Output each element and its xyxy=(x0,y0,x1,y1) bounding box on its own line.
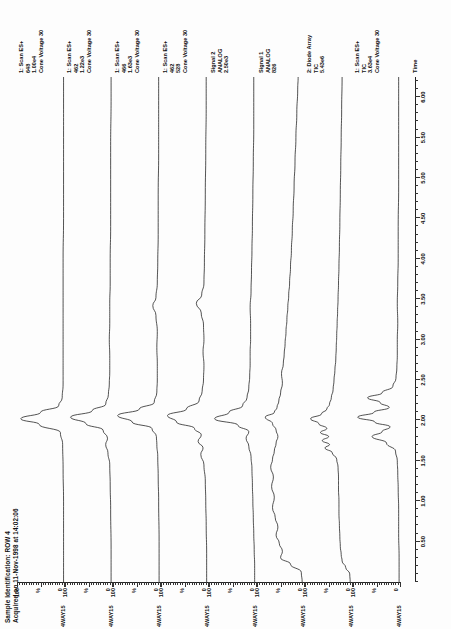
time-axis-tick xyxy=(415,88,418,89)
trace-plot-area xyxy=(65,77,113,582)
trace-legend: 1: Scan ES+TIC3.63e4Cone Voltage 30 xyxy=(354,30,380,73)
trace-legend-line: Cone Voltage 30 xyxy=(86,30,93,73)
y-axis-tick xyxy=(302,582,303,585)
y-axis-tick xyxy=(249,582,250,585)
time-axis-tick xyxy=(415,250,418,251)
trace-stack: 100%04WAY151: Scan ES+6481.00e4Cone Volt… xyxy=(17,0,432,629)
y-axis-tick xyxy=(65,582,66,587)
y-axis-tick xyxy=(62,582,63,585)
y-axis-tick-label: 100 xyxy=(62,588,68,597)
time-axis-tick xyxy=(415,533,418,534)
y-axis-tick xyxy=(398,582,399,585)
time-axis-tick xyxy=(415,234,418,235)
y-axis-tick xyxy=(218,582,219,585)
y-axis-tick xyxy=(214,582,215,585)
y-axis-tick xyxy=(153,582,154,585)
y-axis-tick xyxy=(365,582,366,585)
y-axis-tick xyxy=(91,582,92,585)
time-axis-tick-label: 2.00 xyxy=(420,415,426,426)
y-axis-tick xyxy=(132,582,133,585)
trace-legend-line: TIC xyxy=(361,30,368,73)
y-axis-tick xyxy=(360,582,361,585)
time-axis-tick xyxy=(415,492,418,493)
y-axis-tick xyxy=(48,582,49,585)
trace-legend-line: 1: Scan ES+ xyxy=(114,30,121,73)
y-axis-tick xyxy=(305,582,306,587)
y-axis-tick xyxy=(299,582,300,585)
trace-plot-area xyxy=(17,77,65,582)
y-axis-tick xyxy=(233,582,234,587)
y-axis-tick xyxy=(271,582,272,585)
y-axis-tick-label: % xyxy=(35,588,41,593)
y-axis-tick xyxy=(285,582,286,585)
y-axis-tick xyxy=(288,582,289,585)
time-axis-tick-label: 1.50 xyxy=(420,455,426,466)
y-axis-tick xyxy=(201,582,202,585)
y-axis-tick xyxy=(180,582,181,585)
time-axis-tick xyxy=(415,242,418,243)
time-axis-tick xyxy=(415,573,418,574)
y-axis-tick xyxy=(381,582,382,585)
y-axis-tick xyxy=(377,582,378,587)
y-axis-tick xyxy=(166,582,167,585)
trace-panel: 100%04WAY152: Diode ArrayTIC5.43e6 xyxy=(305,0,353,629)
y-axis-tick xyxy=(194,582,195,585)
y-axis-tick xyxy=(295,582,296,585)
time-axis-tick-label: 6.00 xyxy=(420,92,426,103)
y-axis-tick xyxy=(173,582,174,585)
time-axis-tick xyxy=(415,193,418,194)
y-axis-tick xyxy=(45,582,46,585)
y-axis-tick xyxy=(105,582,106,585)
time-axis-tick xyxy=(415,112,418,113)
y-axis-tick xyxy=(283,582,284,585)
y-axis-tick xyxy=(343,582,344,585)
trace-line xyxy=(305,77,353,582)
chromatogram-page: Sample Identification: ROW 4 Acquired on… xyxy=(0,0,451,629)
y-axis-tick xyxy=(103,582,104,585)
time-axis-tick xyxy=(415,282,418,283)
y-axis-tick xyxy=(24,582,25,585)
trace-plot-area xyxy=(161,77,209,582)
y-axis-tick xyxy=(388,582,389,585)
y-axis-tick xyxy=(33,582,34,585)
y-axis-tick xyxy=(151,582,152,585)
trace-legend-line: 466 xyxy=(121,30,128,73)
y-axis-tick xyxy=(259,582,260,585)
y-axis-tick-label: 100 xyxy=(350,588,356,597)
y-axis-tick xyxy=(100,582,101,585)
y-axis-tick xyxy=(26,582,27,585)
y-axis-tick xyxy=(74,582,75,585)
y-axis-tick xyxy=(120,582,121,585)
trace-panel: 100%04WAY151: Scan ES+4621.22e3Cone Volt… xyxy=(65,0,113,629)
y-axis-tick xyxy=(358,582,359,585)
trace-legend-line: Signal 2 xyxy=(210,49,217,73)
time-axis-tick xyxy=(415,266,418,267)
y-axis-tick xyxy=(161,582,162,587)
y-axis: 100%0 xyxy=(113,582,161,593)
y-axis-tick xyxy=(216,582,217,585)
y-axis-tick xyxy=(17,582,18,587)
y-axis-tick xyxy=(362,582,363,585)
time-axis-tick xyxy=(415,565,418,566)
y-axis-tick-label: % xyxy=(227,588,233,593)
y-axis-tick xyxy=(115,582,116,585)
trace-panel: 100%04WAY151: Scan ES+4661.63e3Cone Volt… xyxy=(113,0,161,629)
y-axis-tick-label: 100 xyxy=(206,588,212,597)
y-axis-tick xyxy=(206,582,207,585)
y-axis-tick xyxy=(144,582,145,585)
report-sheet: Sample Identification: ROW 4 Acquired on… xyxy=(0,0,451,629)
time-axis-tick-label: 3.50 xyxy=(420,294,426,305)
y-axis-tick xyxy=(93,582,94,585)
y-axis-tick xyxy=(281,582,282,587)
time-axis-tick-label: 5.00 xyxy=(420,172,426,183)
y-axis-tick xyxy=(292,582,293,585)
y-axis-tick xyxy=(230,582,231,585)
y-axis-tick xyxy=(155,582,156,585)
time-axis-tick xyxy=(415,145,418,146)
trace-legend-line: 462 xyxy=(169,30,176,73)
y-axis-tick xyxy=(209,582,210,587)
y-axis-tick-label: % xyxy=(83,588,89,593)
trace-line xyxy=(161,77,209,582)
y-axis-tick xyxy=(395,582,396,585)
y-axis-tick xyxy=(355,582,356,585)
